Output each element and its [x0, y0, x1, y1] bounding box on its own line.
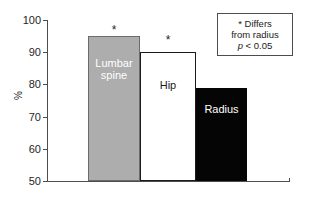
y-tick-60	[43, 149, 47, 150]
bar-radius: Radius	[196, 88, 247, 181]
y-tick-label-90: 90	[29, 47, 41, 58]
y-tick-label-80: 80	[29, 79, 41, 90]
bar-hip: Hip	[140, 52, 196, 181]
note-line-3: p < 0.05	[220, 40, 290, 51]
significance-note-box: * Differs from radius p < 0.05	[217, 13, 293, 56]
y-tick-label-60: 60	[29, 144, 41, 155]
bar-label-radius: Radius	[197, 103, 246, 115]
y-tick-80	[43, 84, 47, 85]
y-tick-70	[43, 117, 47, 118]
bar-lumbar-spine: Lumbarspine	[88, 36, 140, 181]
y-tick-90	[43, 52, 47, 53]
y-tick-50	[43, 181, 47, 182]
y-tick-label-100: 100	[23, 15, 41, 26]
p-value: < 0.05	[243, 40, 272, 51]
bar-label-lumbar-line2: spine	[101, 69, 127, 81]
y-axis-line	[47, 20, 48, 182]
note-line-2: from radius	[220, 29, 290, 40]
bar-label-hip: Hip	[141, 79, 195, 91]
bar-chart-figure: % 1009080706050 Lumbarspine Hip Radius *…	[0, 0, 313, 199]
significance-asterisk-hip: *	[163, 34, 173, 46]
note-line-1: * Differs	[220, 18, 290, 29]
x-axis-line	[47, 181, 290, 182]
y-tick-100	[43, 20, 47, 21]
x-axis-end-tick	[289, 178, 290, 182]
bar-label-lumbar-line1: Lumbar	[95, 57, 132, 69]
y-tick-label-70: 70	[29, 112, 41, 123]
significance-asterisk-lumbar-spine: *	[109, 24, 119, 36]
y-axis-title: %	[13, 91, 24, 100]
y-tick-label-50: 50	[29, 176, 41, 187]
bar-label-lumbar-spine: Lumbarspine	[89, 57, 139, 81]
